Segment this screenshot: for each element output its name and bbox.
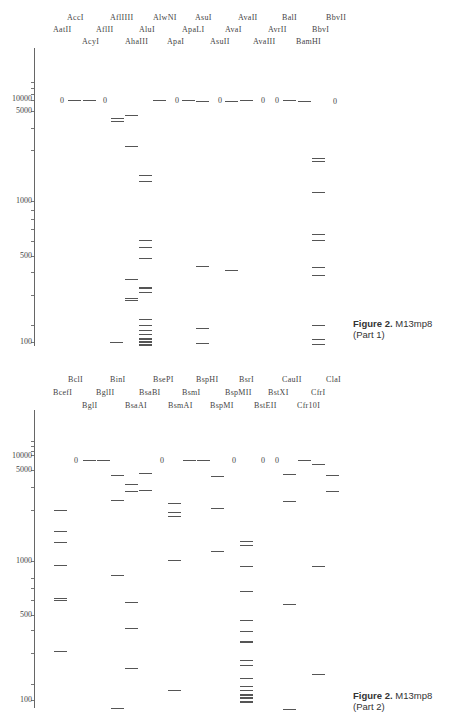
fragment-band bbox=[111, 500, 124, 501]
enzyme-label: BsrI bbox=[239, 375, 254, 384]
fragment-band bbox=[197, 460, 210, 461]
fragment-band bbox=[240, 545, 253, 546]
enzyme-label: BsmAI bbox=[168, 401, 193, 410]
axis-tick bbox=[31, 684, 34, 685]
y-tick-label: 5000 bbox=[0, 465, 32, 474]
enzyme-label: BspMII bbox=[225, 388, 252, 397]
fragment-band bbox=[211, 476, 224, 477]
enzyme-label: BstXI bbox=[268, 388, 289, 397]
enzyme-label: ClaI bbox=[326, 375, 341, 384]
fragment-band bbox=[211, 551, 224, 552]
enzyme-label: BsaBI bbox=[139, 388, 161, 397]
fragment-band bbox=[283, 474, 296, 475]
axis-tick bbox=[31, 446, 34, 447]
axis-tick bbox=[31, 487, 34, 488]
y-tick-label: 10000 bbox=[0, 451, 32, 460]
enzyme-label: BspHI bbox=[196, 375, 218, 384]
fragment-band bbox=[111, 708, 124, 709]
axis-tick bbox=[31, 510, 34, 511]
fragment-band bbox=[83, 460, 96, 461]
enzyme-label: BstEII bbox=[254, 401, 277, 410]
enzyme-label: BinI bbox=[110, 375, 125, 384]
fragment-band bbox=[54, 510, 67, 511]
enzyme-label: BsaAI bbox=[125, 401, 147, 410]
fragment-band bbox=[240, 631, 253, 632]
fragment-band bbox=[240, 697, 253, 699]
no-site-marker: 0 bbox=[74, 456, 78, 465]
no-site-marker: 0 bbox=[160, 456, 164, 465]
fragment-band bbox=[54, 565, 67, 566]
fragment-band bbox=[240, 665, 253, 666]
fragment-band bbox=[240, 541, 253, 542]
fragment-band bbox=[111, 475, 124, 476]
axis-tick bbox=[31, 653, 34, 654]
fragment-band bbox=[125, 668, 138, 669]
fragment-band bbox=[139, 490, 152, 491]
fragment-band bbox=[183, 460, 196, 461]
enzyme-label: CfrI bbox=[311, 388, 326, 397]
fragment-band bbox=[54, 531, 67, 532]
fragment-band bbox=[211, 508, 224, 509]
no-site-marker: 0 bbox=[261, 456, 265, 465]
enzyme-label: BcefI bbox=[53, 388, 72, 397]
fragment-band bbox=[139, 473, 152, 474]
fragment-band bbox=[125, 628, 138, 629]
figure-part-2: BclI BinI BsePI BspHI BsrI CauII ClaI Bc… bbox=[0, 0, 461, 723]
fragment-band bbox=[240, 678, 253, 679]
axis-tick bbox=[31, 578, 34, 579]
enzyme-label: BspMI bbox=[210, 401, 234, 410]
y-axis bbox=[34, 410, 35, 708]
fragment-band bbox=[168, 690, 181, 691]
fragment-band bbox=[168, 560, 181, 561]
enzyme-label: BsmI bbox=[182, 388, 201, 397]
fragment-band bbox=[240, 620, 253, 621]
axis-tick bbox=[31, 588, 34, 589]
enzyme-label: BglII bbox=[96, 388, 114, 397]
fragment-band bbox=[240, 566, 253, 567]
axis-tick bbox=[31, 600, 34, 601]
caption-title: M13mp8 bbox=[395, 690, 432, 701]
axis-tick bbox=[31, 630, 34, 631]
fragment-band bbox=[240, 591, 253, 592]
caption-part: (Part 2) bbox=[353, 701, 385, 712]
fragment-band bbox=[298, 460, 311, 461]
fragment-band bbox=[168, 512, 181, 513]
enzyme-label: Cfr10I bbox=[297, 401, 320, 410]
fragment-band bbox=[312, 674, 325, 675]
fragment-band bbox=[240, 694, 253, 696]
fragment-band bbox=[283, 709, 296, 710]
fragment-band bbox=[54, 542, 67, 543]
fragment-band bbox=[312, 464, 325, 465]
enzyme-label: BsePI bbox=[153, 375, 174, 384]
fragment-band bbox=[125, 484, 138, 485]
fragment-band bbox=[97, 460, 110, 461]
fragment-band bbox=[54, 651, 67, 652]
fragment-band bbox=[125, 491, 138, 492]
fragment-band bbox=[240, 701, 253, 703]
y-tick-label: 100 bbox=[0, 695, 32, 704]
fragment-band bbox=[326, 475, 339, 476]
fragment-band bbox=[240, 686, 253, 687]
y-tick-label: 1000 bbox=[0, 556, 32, 565]
fragment-band bbox=[111, 575, 124, 576]
enzyme-label: BclI bbox=[68, 375, 83, 384]
fragment-band bbox=[283, 501, 296, 502]
fragment-band bbox=[240, 641, 253, 643]
axis-tick bbox=[31, 441, 34, 442]
no-site-marker: 0 bbox=[232, 456, 236, 465]
fragment-band bbox=[312, 566, 325, 567]
fragment-band bbox=[54, 598, 67, 599]
no-site-marker: 0 bbox=[275, 456, 279, 465]
figure-caption: Figure 2. M13mp8 (Part 2) bbox=[353, 690, 432, 712]
fragment-band bbox=[326, 491, 339, 492]
fragment-band bbox=[240, 690, 253, 691]
fragment-band bbox=[283, 604, 296, 605]
fragment-band bbox=[240, 660, 253, 661]
y-tick-label: 500 bbox=[0, 610, 32, 619]
fragment-band bbox=[125, 602, 138, 603]
fragment-band bbox=[168, 516, 181, 517]
enzyme-label: BglI bbox=[82, 401, 97, 410]
caption-label: Figure 2. bbox=[353, 690, 393, 701]
fragment-band bbox=[54, 600, 67, 601]
enzyme-label: CauII bbox=[282, 375, 302, 384]
